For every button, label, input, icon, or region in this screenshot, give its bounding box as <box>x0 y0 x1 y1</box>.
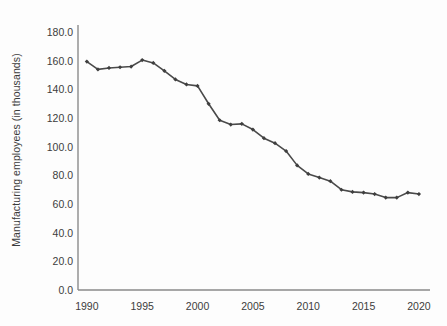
axis-spines <box>78 25 430 290</box>
data-point-marker <box>373 192 377 196</box>
data-point-marker <box>107 66 111 70</box>
data-point-marker <box>350 190 354 194</box>
data-series-manufacturing-employees <box>85 58 421 200</box>
data-point-marker <box>417 192 421 196</box>
data-point-marker <box>229 122 233 126</box>
data-point-marker <box>361 190 365 194</box>
chart-figure: Manufacturing employees (in thousands) 0… <box>0 0 447 326</box>
data-point-marker <box>317 175 321 179</box>
series-markers <box>85 58 421 200</box>
plot-area <box>0 0 447 326</box>
data-point-marker <box>118 65 122 69</box>
data-point-marker <box>384 196 388 200</box>
